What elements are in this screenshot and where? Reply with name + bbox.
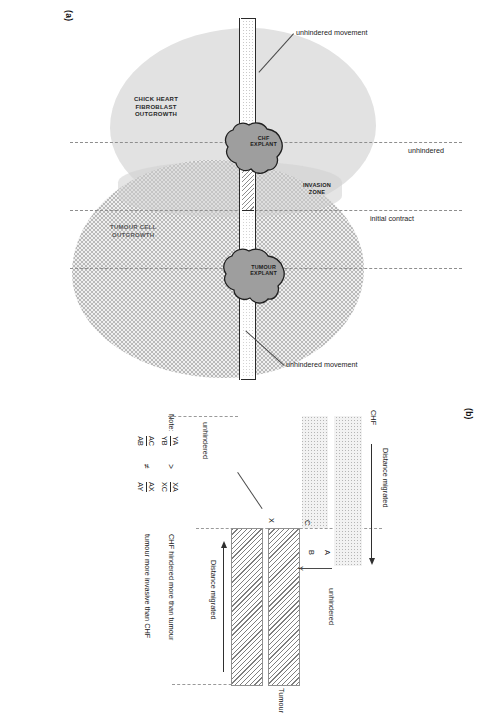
unhindered-movement-left-label: unhindered movement — [296, 28, 368, 37]
invasion-zone-label-line1: INVASION — [303, 182, 331, 188]
chf-group-label: CHF — [369, 410, 378, 425]
arrow-head-bottom-icon — [222, 541, 228, 548]
note-1-right-denominator: XC — [161, 482, 172, 492]
note-fraction-1-right: XA XC — [161, 482, 181, 492]
distance-migrated-arrow-bottom — [223, 548, 224, 672]
note-operator-1: > — [166, 464, 176, 469]
tumour-bar-hindered — [268, 528, 300, 686]
tumour-outgrowth-label-line2: OUTGROWTH — [112, 232, 154, 238]
note-conclusion-1: CHF hindered more than tumour — [167, 534, 176, 640]
panel-b-unhindered-top-label: unhindered — [327, 588, 336, 625]
tumour-explant-label-line1: TUMOUR — [251, 264, 276, 270]
note-title: Note: — [167, 414, 176, 432]
note-operator-2: ≠ — [142, 464, 152, 469]
tumour-outgrowth-label-line1: TUMOUR CELL — [110, 224, 156, 230]
note-1-left-numerator: YA — [171, 436, 180, 446]
note-2-left-numerator: AC — [147, 436, 156, 446]
arrow-head-top-icon — [370, 558, 376, 565]
panel-b-tag: (b) — [464, 408, 474, 420]
chf-outgrowth-label-line1: CHICK HEART — [134, 96, 178, 102]
note-1-left-denominator: YB — [161, 436, 172, 446]
point-label-c: C — [303, 520, 312, 525]
guide-dash-initial-contact — [70, 210, 462, 211]
chf-explant-label: CHF EXPLANT — [241, 135, 287, 148]
chf-bar-hindered — [302, 416, 328, 528]
note-2-right-numerator: AX — [147, 482, 156, 492]
note-2-left-denominator: AB — [137, 436, 148, 446]
tumour-explant-label-line2: EXPLANT — [250, 270, 277, 276]
invasion-zone-label-line2: ZONE — [309, 189, 325, 195]
note-1-right-numerator: XA — [171, 482, 180, 492]
note-fraction-1-left: YA YB — [161, 436, 181, 446]
panel-b: (b) CHF Tumour A B Y C X Distance migrat… — [0, 400, 482, 699]
point-label-b: B — [307, 550, 316, 555]
unhindered-movement-right-label: unhindered movement — [286, 360, 358, 369]
tumour-explant-label: TUMOUR EXPLANT — [233, 264, 295, 277]
chf-outgrowth-label-line2: FIBROBLAST — [135, 104, 176, 110]
unhindered-top-leader — [300, 568, 332, 569]
chf-outgrowth-label-line3: OUTGROWTH — [135, 111, 177, 117]
panel-a: (a) CHF EXPLANT TUMOUR — [0, 0, 482, 400]
chf-bar-unhindered — [334, 416, 362, 566]
chf-explant-label-line2: EXPLANT — [250, 141, 277, 147]
point-label-x: X — [267, 518, 276, 523]
tumour-bar-unhindered — [231, 528, 263, 686]
tumour-outgrowth-label: TUMOUR CELL OUTGROWTH — [110, 224, 156, 239]
distance-migrated-arrow-top — [371, 444, 372, 562]
chf-explant-shape — [222, 120, 284, 176]
initial-contact-label: initial contract — [370, 214, 414, 223]
panel-b-unhindered-bottom-label: unhindered — [201, 422, 210, 459]
panel-a-tag: (a) — [64, 10, 74, 21]
invasion-zone-label: INVASION ZONE — [277, 182, 357, 196]
note-fraction-2-left: AC AB — [137, 436, 157, 446]
panel-b-guide-left — [168, 416, 238, 417]
point-label-a: A — [323, 550, 332, 555]
panel-a-unhindered-label: unhindered — [408, 146, 444, 155]
chf-explant-label-line1: CHF — [258, 135, 270, 141]
unhindered-bottom-leader — [237, 472, 262, 509]
tumour-group-label: Tumour — [277, 688, 286, 713]
chf-outgrowth-label: CHICK HEART FIBROBLAST OUTGROWTH — [134, 96, 178, 119]
distance-migrated-top-label: Distance migrated — [381, 448, 390, 508]
note-2-right-denominator: AY — [137, 482, 148, 492]
note-fraction-2-right: AX AY — [137, 482, 157, 492]
distance-migrated-bottom-label: Distance migrated — [209, 560, 218, 620]
note-conclusion-2: tumour more invasive than CHF — [143, 534, 152, 638]
